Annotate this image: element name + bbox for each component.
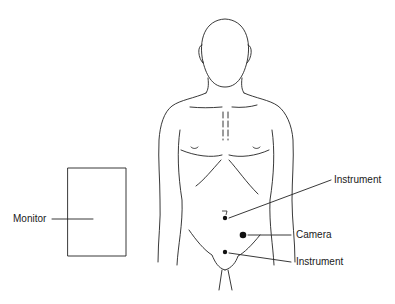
- torso-outline-left: [158, 93, 206, 262]
- neck-right: [242, 78, 244, 93]
- right-groin: [225, 235, 260, 270]
- left-pec: [181, 150, 222, 156]
- instrument-port-lower: [223, 250, 227, 254]
- instrument-port-upper: [223, 216, 227, 220]
- torso-outline-right: [244, 93, 295, 262]
- left-nipple: [191, 147, 198, 149]
- right-nipple: [253, 147, 260, 149]
- right-costal-margin: [229, 160, 258, 194]
- port-marker-tick: [222, 211, 227, 215]
- port-placement-diagram: Monitor Instrument Camera Instrument: [0, 0, 395, 304]
- left-leg: [219, 270, 222, 290]
- camera-label: Camera: [296, 229, 332, 241]
- monitor-label: Monitor: [13, 213, 46, 225]
- left-groin: [189, 230, 225, 270]
- right-pec: [229, 150, 269, 156]
- right-clavicle: [232, 105, 257, 107]
- head-outline: [201, 19, 248, 87]
- left-costal-margin: [196, 160, 221, 186]
- left-clavicle: [190, 107, 222, 108]
- sternum: [223, 112, 228, 140]
- instrument-lower-leader: [229, 253, 291, 262]
- instrument-upper-label: Instrument: [334, 174, 381, 186]
- right-inner-arm: [270, 130, 274, 265]
- monitor-box: [68, 168, 126, 256]
- camera-port: [240, 232, 247, 239]
- instrument-upper-leader: [229, 180, 331, 218]
- instrument-lower-label: Instrument: [296, 256, 343, 268]
- right-leg: [228, 270, 232, 290]
- neck-left: [206, 78, 208, 93]
